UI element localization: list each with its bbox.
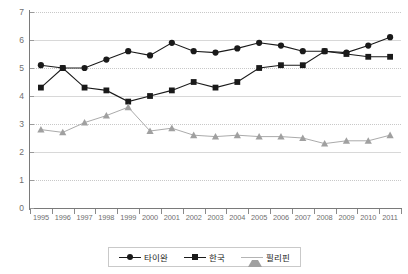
legend-label-taiwan: 타이완 [144,251,168,263]
square-marker-icon [184,253,206,262]
legend-item-philippines[interactable]: 필리핀 [241,251,290,263]
gridline [29,152,401,153]
legend-item-taiwan[interactable]: 타이완 [119,251,168,263]
gridline [29,68,401,69]
y-axis-tick-label: 0 [8,204,24,213]
gridline [29,96,401,97]
y-axis-tick-label: 5 [8,64,24,73]
y-axis-tick-label: 2 [8,148,24,157]
x-axis-line [29,208,402,209]
gridline [29,124,401,125]
chart-legend: 타이완 한국 필리핀 [108,247,301,267]
y-axis-tick-label: 6 [8,36,24,45]
y-axis-tick [30,40,34,41]
y-axis-tick [30,124,34,125]
y-axis-tick [30,96,34,97]
y-axis-tick-label: 3 [8,120,24,129]
gridline [29,180,401,181]
y-axis-tick-label: 7 [8,8,24,17]
y-axis-tick [30,180,34,181]
x-axis-tick-label: 2011 [373,214,407,221]
circle-marker-icon [119,253,141,262]
gridline [29,12,401,13]
legend-label-philippines: 필리핀 [266,251,290,263]
legend-item-korea[interactable]: 한국 [184,251,225,263]
y-axis-tick [30,68,34,69]
legend-label-korea: 한국 [209,251,225,263]
y-axis-tick-label: 1 [8,176,24,185]
y-axis-tick [30,152,34,153]
y-axis-tick [30,12,34,13]
plot-area [29,12,401,208]
y-axis-tick-label: 4 [8,92,24,101]
triangle-marker-icon [241,253,263,262]
plot-background [29,12,401,208]
gridline [29,40,401,41]
line-chart: 01234567 1995199619971998199920002001200… [0,0,408,274]
